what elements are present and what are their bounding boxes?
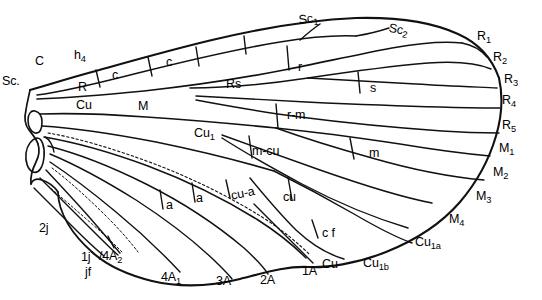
label-Cu-basal: Cu xyxy=(76,99,92,112)
vein-R4 xyxy=(196,96,500,108)
label-Cu1a: Cu1a xyxy=(415,236,441,249)
label-Sc: Sc. xyxy=(2,75,20,88)
vein-R3 xyxy=(308,78,497,88)
vein-M2 xyxy=(276,128,484,180)
label-2j: 2j xyxy=(39,222,48,235)
vein-R1 xyxy=(462,43,487,57)
label-3A: 3A xyxy=(216,275,231,288)
label-Sc2: Sc2 xyxy=(388,22,409,38)
label-1j: 1j xyxy=(81,251,90,264)
label-cell-Cu1: Cu1 xyxy=(194,127,215,140)
label-R2: R2 xyxy=(493,51,507,64)
anal-lobe-dashed-1 xyxy=(52,168,138,252)
label-Sc1: Sc1 xyxy=(298,12,319,27)
label-Cu1b: Cu1b xyxy=(363,257,389,270)
crossvein-m xyxy=(350,138,354,159)
vein-3A xyxy=(50,154,232,279)
wing-base-lower-outline xyxy=(31,144,39,184)
label-cell-s: s xyxy=(370,82,376,95)
label-cell-r: r xyxy=(298,61,302,74)
axillary-sclerite-2 xyxy=(26,138,44,172)
crossvein-c2 xyxy=(196,47,199,66)
label-cell-c-2: c xyxy=(166,56,172,69)
vein-Sc2 xyxy=(356,28,389,36)
crossvein-c1 xyxy=(148,57,152,76)
crossvein-r-m xyxy=(276,104,278,128)
label-R3: R3 xyxy=(504,73,518,86)
label-M: M xyxy=(138,100,148,113)
crossvein-cf xyxy=(312,220,318,238)
crossvein-Sc1-bar xyxy=(244,36,246,54)
costal-margin-outline xyxy=(30,18,499,90)
anal-lobe-notch xyxy=(31,179,58,192)
label-h4: h4 xyxy=(74,49,86,62)
vein-CuA-terminal xyxy=(254,204,313,263)
label-R: R xyxy=(78,81,87,94)
label-cell-r-m: r-m xyxy=(287,109,305,122)
label-cell-Rs: Rs xyxy=(226,78,241,91)
label-R1: R1 xyxy=(477,30,491,43)
label-4A2: /4A2 xyxy=(99,250,122,263)
label-2A: 2A xyxy=(260,274,275,287)
label-M1: M1 xyxy=(499,142,514,155)
label-4A1: 4A1 xyxy=(161,271,181,284)
crossvein-h4 xyxy=(96,70,100,87)
label-M4: M4 xyxy=(449,213,464,226)
vein-R2 xyxy=(308,62,491,78)
label-R5: R5 xyxy=(502,119,516,132)
label-cell-cu: cu xyxy=(283,191,296,204)
crossvein-s xyxy=(358,72,360,93)
label-M3: M3 xyxy=(476,190,491,203)
label-cell-a-1: a xyxy=(166,199,173,212)
label-M2: M2 xyxy=(493,166,508,179)
label-jf: jf xyxy=(85,266,91,279)
wing-base-connector xyxy=(25,90,38,144)
crossvein-r xyxy=(287,46,289,70)
vein-Cu1a xyxy=(274,171,412,243)
label-cell-c-1: c xyxy=(112,69,118,82)
label-cell-m: m xyxy=(369,147,379,160)
label-C: C xyxy=(35,55,44,68)
label-cell-cf: c f xyxy=(322,227,335,240)
label-cell-m-cu: m-cu xyxy=(252,145,279,158)
vein-R5 xyxy=(196,100,499,133)
label-Cu-posterior: Cu xyxy=(322,258,338,271)
label-R4: R4 xyxy=(502,94,516,107)
label-cell-a-2: a xyxy=(196,192,203,205)
wing-venation-figure: C h4 Sc1 Sc2 Sc. R M Cu c c Rs r s r-m C… xyxy=(0,0,542,300)
label-1A: 1A xyxy=(302,265,317,278)
vein-M xyxy=(40,114,276,128)
